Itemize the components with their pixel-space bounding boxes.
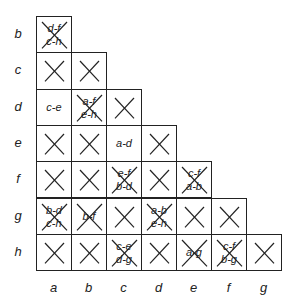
cell-g-a: b-dc-h — [36, 198, 72, 235]
cell-g-f — [211, 198, 247, 235]
cross-out-x-icon — [142, 199, 177, 235]
cell-e-a — [36, 125, 72, 162]
cross-out-x-icon — [107, 199, 142, 235]
cross-out-x-icon — [72, 235, 107, 271]
row-label-d: d — [8, 99, 28, 114]
cross-out-x-icon — [37, 235, 72, 271]
cell-g-d: a-be-h — [141, 198, 177, 235]
cross-out-x-icon — [212, 235, 247, 271]
cell-g-b: b-f — [71, 198, 107, 235]
cross-out-x-icon — [72, 90, 107, 126]
cell-d-a: c-e — [36, 89, 72, 126]
cell-e-c: a-d — [106, 125, 142, 162]
col-label-g: g — [254, 280, 274, 295]
cell-f-d — [141, 161, 177, 198]
cell-h-b — [71, 234, 107, 271]
cross-out-x-icon — [37, 17, 72, 53]
cell-h-d — [141, 234, 177, 271]
col-label-a: a — [44, 280, 64, 295]
implied-pair: c-e — [37, 101, 71, 113]
cross-out-x-icon — [37, 162, 72, 198]
cell-f-c: e-fb-d — [106, 161, 142, 198]
cell-f-e: c-fa-b — [176, 161, 212, 198]
col-label-e: e — [184, 280, 204, 295]
cross-out-x-icon — [37, 53, 72, 89]
cell-h-f: c-fb-g — [211, 234, 247, 271]
cross-out-x-icon — [247, 235, 282, 271]
col-label-f: f — [219, 280, 239, 295]
cross-out-x-icon — [72, 162, 107, 198]
implication-chart: bcdefghabcdefgd-fc-hc-ea-fe-ha-de-fb-dc-… — [0, 0, 295, 308]
cross-out-x-icon — [177, 199, 212, 235]
cell-c-a — [36, 52, 72, 89]
row-label-b: b — [8, 26, 28, 41]
cell-c-b — [71, 52, 107, 89]
cross-out-x-icon — [37, 126, 72, 162]
cross-out-x-icon — [142, 162, 177, 198]
cell-e-d — [141, 125, 177, 162]
cross-out-x-icon — [107, 162, 142, 198]
cross-out-x-icon — [72, 199, 107, 235]
cell-e-b — [71, 125, 107, 162]
row-label-g: g — [8, 208, 28, 223]
cross-out-x-icon — [107, 235, 142, 271]
row-label-c: c — [8, 62, 28, 77]
row-label-h: h — [8, 244, 28, 259]
row-label-f: f — [8, 171, 28, 186]
cross-out-x-icon — [177, 235, 212, 271]
cell-d-c — [106, 89, 142, 126]
cross-out-x-icon — [107, 90, 142, 126]
cross-out-x-icon — [177, 162, 212, 198]
cross-out-x-icon — [37, 199, 72, 235]
row-label-e: e — [8, 135, 28, 150]
cell-h-g — [246, 234, 282, 271]
col-label-d: d — [149, 280, 169, 295]
cross-out-x-icon — [142, 235, 177, 271]
cell-d-b: a-fe-h — [71, 89, 107, 126]
cross-out-x-icon — [72, 126, 107, 162]
cross-out-x-icon — [142, 126, 177, 162]
cross-out-x-icon — [212, 199, 247, 235]
cell-f-a — [36, 161, 72, 198]
col-label-c: c — [114, 280, 134, 295]
cell-h-a — [36, 234, 72, 271]
cell-g-e — [176, 198, 212, 235]
cell-g-c — [106, 198, 142, 235]
cross-out-x-icon — [72, 53, 107, 89]
col-label-b: b — [79, 280, 99, 295]
cell-f-b — [71, 161, 107, 198]
cell-h-c: c-ed-g — [106, 234, 142, 271]
cell-h-e: a-g — [176, 234, 212, 271]
cell-b-a: d-fc-h — [36, 16, 72, 53]
implied-pair: a-d — [107, 137, 141, 149]
